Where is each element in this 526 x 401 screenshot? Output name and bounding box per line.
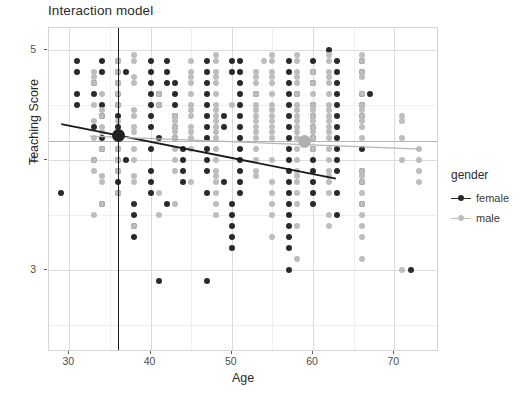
y-tick-mark xyxy=(44,269,47,270)
fit-lines-layer xyxy=(49,28,437,350)
x-tick-label: 60 xyxy=(306,355,318,367)
fit-line-male xyxy=(90,136,421,149)
x-tick-label: 40 xyxy=(144,355,156,367)
legend-label: female xyxy=(476,192,509,204)
x-tick-mark xyxy=(68,351,69,354)
legend-label: male xyxy=(476,212,500,224)
x-tick-label: 50 xyxy=(225,355,237,367)
x-tick-mark xyxy=(150,351,151,354)
female-mean-marker xyxy=(112,129,125,142)
chart-root: Interaction model 3040506070345 Age Teac… xyxy=(0,0,526,401)
fit-line-female xyxy=(61,124,336,179)
x-tick-mark xyxy=(393,351,394,354)
legend-title: gender xyxy=(451,168,523,182)
plot-panel xyxy=(48,27,438,351)
x-tick-mark xyxy=(231,351,232,354)
legend-items: femalemale xyxy=(451,189,523,227)
page-title: Interaction model xyxy=(48,3,153,18)
x-axis-label: Age xyxy=(48,371,438,385)
y-axis-label: Teaching Score xyxy=(27,22,41,222)
male-mean-marker xyxy=(298,135,311,148)
x-tick-label: 70 xyxy=(387,355,399,367)
legend: gender femalemale xyxy=(451,168,523,229)
y-tick-mark xyxy=(44,49,47,50)
legend-key-female-icon xyxy=(451,191,471,205)
x-tick-mark xyxy=(312,351,313,354)
legend-item-female[interactable]: female xyxy=(451,189,523,207)
legend-key-male-icon xyxy=(451,211,471,225)
y-tick-mark xyxy=(44,159,47,160)
x-tick-label: 30 xyxy=(62,355,74,367)
y-tick-label: 3 xyxy=(30,263,36,275)
legend-item-male[interactable]: male xyxy=(451,209,523,227)
